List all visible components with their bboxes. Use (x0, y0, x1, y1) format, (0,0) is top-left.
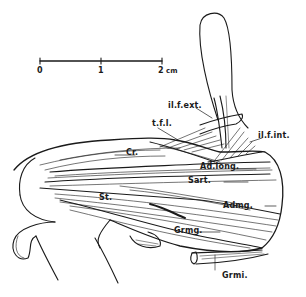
scale-bar-line (40, 58, 162, 64)
label-sart: Sart. (188, 177, 211, 185)
label-grmi: Grmi. (222, 272, 248, 280)
label-ad-long: Ad.long. (200, 163, 239, 171)
label-il-f-int: il.f.int. (258, 132, 290, 140)
scale-tick-0: 0 (37, 67, 43, 75)
label-il-f-ext: il.f.ext. (168, 102, 202, 110)
muscle-drawing (0, 0, 306, 297)
scale-unit: cm (166, 68, 177, 75)
scale-tick-2: 2 (158, 67, 164, 75)
label-grmg: Grmg. (174, 227, 203, 235)
label-t-f-l: t.f.l. (152, 120, 172, 128)
label-st: St. (99, 194, 112, 202)
anatomical-diagram: 0 1 2 cm il.f.ext. t.f.l. il.f.int. Cr. … (0, 0, 306, 297)
label-admg: Admg. (223, 202, 253, 210)
label-cr: Cr. (126, 149, 138, 157)
scale-tick-1: 1 (98, 67, 104, 75)
